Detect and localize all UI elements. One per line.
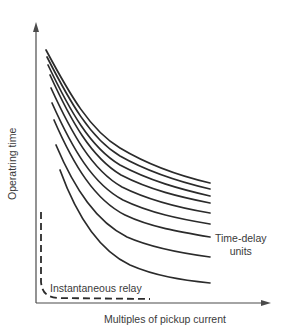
time-delay-line1: Time-delay <box>215 232 267 245</box>
time-delay-units-annotation: Time-delay units <box>215 232 267 258</box>
x-axis-label: Multiples of pickup current <box>104 313 226 325</box>
x-axis-arrow-icon <box>261 300 271 306</box>
y-axis-label: Operatring time <box>6 128 18 200</box>
y-axis-arrow-icon <box>33 22 39 32</box>
axes <box>36 28 265 303</box>
curve-8 <box>56 145 210 257</box>
curve-4 <box>50 75 210 203</box>
time-delay-curves <box>46 50 210 283</box>
curve-9 <box>60 170 210 283</box>
relay-characteristics-figure: Operatring time Multiples of pickup curr… <box>0 0 292 329</box>
instantaneous-relay-annotation: Instantaneous relay <box>50 282 142 294</box>
chart-canvas <box>0 0 292 329</box>
time-delay-line2: units <box>215 245 267 258</box>
